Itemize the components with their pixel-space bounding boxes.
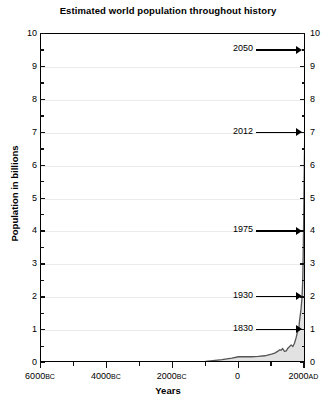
y-axis-minor-tick [40,49,44,50]
x-axis-minor-tick [270,362,271,366]
population-chart: Estimated world population throughout hi… [0,0,336,403]
y-axis-minor-tick [40,181,44,182]
y-axis-minor-tick [40,214,44,215]
chart-title: Estimated world population throughout hi… [0,5,336,16]
x-axis-title: Years [0,385,336,396]
y-axis-minor-tick [302,181,306,182]
annotation-label: 1975 [233,224,253,234]
y-axis-label-right: 8 [310,94,315,104]
annotation-2050: 2050 [256,44,302,55]
annotation-arrowhead [296,325,302,333]
y-axis-minor-tick [40,115,44,116]
x-axis-label: 4000BC [91,371,121,381]
y-axis-label-left: 5 [32,193,37,203]
y-axis-tick [40,230,45,231]
y-axis-tick [300,33,305,34]
y-axis-label-left: 3 [32,258,37,268]
annotation-label: 2050 [233,43,253,53]
annotation-line [256,230,296,231]
annotation-arrowhead [296,227,302,235]
y-axis-tick [40,132,45,133]
annotation-1930: 1930 [256,291,302,302]
y-axis-label-left: 2 [32,291,37,301]
y-axis-label-left: 4 [32,225,37,235]
annotation-1830: 1830 [256,324,302,335]
x-axis-label: 2000AD [288,371,318,381]
y-axis-minor-tick [302,115,306,116]
y-axis-tick [40,33,45,34]
population-curve [41,34,305,362]
y-axis-label-left: 10 [27,28,37,38]
y-axis-tick [40,165,45,166]
annotation-line [256,132,296,133]
y-axis-tick [40,198,45,199]
y-axis-minor-tick [40,82,44,83]
x-axis-minor-tick [73,362,74,366]
y-axis-minor-tick [40,313,44,314]
x-axis-label-era: BC [45,373,55,380]
y-axis-label-left: 7 [32,127,37,137]
annotation-arrowhead [296,46,302,54]
y-axis-label-right: 5 [310,193,315,203]
x-axis-minor-tick [205,362,206,366]
y-axis-minor-tick [302,247,306,248]
population-line [41,50,305,362]
y-axis-label-left: 0 [32,357,37,367]
annotation-label: 2012 [233,126,253,136]
y-axis-tick [40,329,45,330]
annotation-arrowhead [296,128,302,136]
plot-area [40,33,305,362]
y-axis-title: Population in billions [9,104,20,284]
y-axis-label-right: 1 [310,324,315,334]
y-axis-minor-tick [302,346,306,347]
x-axis-label: 2000BC [157,371,187,381]
y-axis-label-right: 4 [310,225,315,235]
population-area-fill [41,50,305,362]
y-axis-label-left: 6 [32,160,37,170]
x-axis-label-era: AD [308,373,318,380]
x-axis-label-era: BC [177,373,187,380]
y-axis-minor-tick [302,82,306,83]
y-axis-tick [300,66,305,67]
annotation-1975: 1975 [256,225,302,236]
annotation-label: 1830 [233,323,253,333]
x-axis-label: 6000BC [25,371,55,381]
y-axis-label-right: 2 [310,291,315,301]
y-axis-minor-tick [302,280,306,281]
y-axis-tick [40,263,45,264]
y-axis-minor-tick [40,247,44,248]
x-axis-label: 0 [235,371,240,381]
annotation-line [256,49,296,50]
y-axis-tick [40,66,45,67]
y-axis-tick [300,263,305,264]
x-axis-tick [106,362,107,368]
y-axis-minor-tick [302,148,306,149]
x-axis-tick [172,362,173,368]
x-axis-minor-tick [139,362,140,366]
y-axis-tick [300,99,305,100]
y-axis-tick [40,296,45,297]
y-axis-minor-tick [40,148,44,149]
y-axis-label-left: 1 [32,324,37,334]
y-axis-label-right: 7 [310,127,315,137]
y-axis-minor-tick [302,313,306,314]
y-axis-label-right: 6 [310,160,315,170]
y-axis-minor-tick [302,49,306,50]
x-axis-label-era: BC [111,373,121,380]
y-axis-label-right: 9 [310,61,315,71]
y-axis-label-right: 3 [310,258,315,268]
y-axis-label-right: 0 [310,357,315,367]
y-axis-tick [300,165,305,166]
y-axis-minor-tick [40,346,44,347]
y-axis-minor-tick [302,214,306,215]
y-axis-tick [300,198,305,199]
annotation-2012: 2012 [256,127,302,138]
y-axis-label-left: 8 [32,94,37,104]
x-axis-tick [40,362,41,368]
y-axis-label-left: 9 [32,61,37,71]
annotation-label: 1930 [233,290,253,300]
x-axis-tick [238,362,239,368]
annotation-arrowhead [296,292,302,300]
y-axis-label-right: 10 [310,28,320,38]
y-axis-tick [40,99,45,100]
